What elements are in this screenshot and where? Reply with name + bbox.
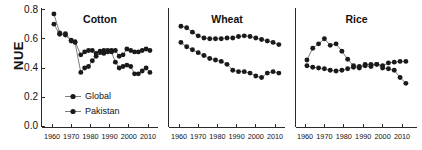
chart-figure: NUE 0.8 0.6 0.4 0.2 0.0 Cotton 196019701… [0, 0, 422, 150]
plot-cotton [41, 0, 159, 150]
x-tick-1990: 1990 [228, 133, 244, 141]
panel-rice: Rice 196019701980199020002010 [295, 0, 418, 150]
x-tick-1970: 1970 [316, 133, 332, 141]
x-tick-2010: 2010 [267, 133, 283, 141]
plot-rice [295, 0, 418, 150]
x-tick-1960: 1960 [171, 133, 187, 141]
y-tick-0.4: 0.4 [12, 63, 38, 73]
x-tick-2010: 2010 [394, 133, 410, 141]
x-tick-2000: 2000 [121, 133, 137, 141]
y-tick-0.2: 0.2 [12, 92, 38, 102]
y-tick-0.0: 0.0 [12, 121, 38, 131]
x-tick-1970: 1970 [63, 133, 79, 141]
x-tick-1980: 1980 [336, 133, 352, 141]
y-axis: NUE 0.8 0.6 0.4 0.2 0.0 [0, 0, 38, 150]
x-tick-1960: 1960 [297, 133, 313, 141]
x-tick-2000: 2000 [374, 133, 390, 141]
x-tick-2000: 2000 [248, 133, 264, 141]
panel-cotton: Cotton 196019701980199020002010 Global P… [41, 0, 159, 150]
x-tick-1970: 1970 [190, 133, 206, 141]
x-tick-1990: 1990 [101, 133, 117, 141]
x-tick-1990: 1990 [355, 133, 371, 141]
x-tick-1960: 1960 [44, 133, 60, 141]
x-tick-1980: 1980 [209, 133, 225, 141]
y-tick-0.6: 0.6 [12, 34, 38, 44]
panel-wheat: Wheat 196019701980199020002010 [168, 0, 286, 150]
legend-label-pakistan: Pakistan [85, 107, 120, 116]
x-tick-2010: 2010 [140, 133, 156, 141]
x-tick-1980: 1980 [82, 133, 98, 141]
legend-label-global: Global [85, 92, 111, 101]
plot-wheat [168, 0, 286, 150]
y-tick-0.8: 0.8 [12, 5, 38, 15]
